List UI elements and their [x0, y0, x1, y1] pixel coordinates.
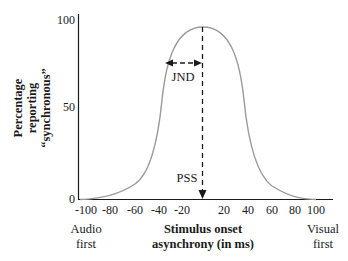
x-tick: -40 — [151, 203, 167, 217]
pss-label: PSS — [177, 171, 198, 185]
chart: 100 50 0 -100 -80 -60 -40 -20 20 40 60 8… — [0, 0, 348, 261]
y-tick-100: 100 — [57, 13, 75, 27]
y-axis-label-line: Percentage — [11, 78, 25, 137]
x-tick: -20 — [174, 203, 190, 217]
x-axis-label-line: asynchrony (in ms) — [152, 237, 254, 251]
visual-first-label: Visual — [307, 222, 339, 236]
x-tick: 80 — [289, 203, 301, 217]
x-tick: -60 — [127, 203, 143, 217]
jnd-right-arrowhead-icon — [194, 60, 202, 67]
audio-first-label: first — [76, 237, 97, 251]
x-tick: -100 — [75, 203, 97, 217]
x-tick: -80 — [102, 203, 118, 217]
y-tick-50: 50 — [63, 100, 75, 114]
x-tick: 60 — [266, 203, 278, 217]
x-tick: 20 — [218, 203, 230, 217]
y-axis-label-line: “synchronous” — [39, 68, 53, 148]
y-axis-label: Percentage reporting “synchronous” — [11, 68, 53, 148]
y-axis-label-line: reporting — [25, 82, 39, 133]
pss-arrowhead-icon — [199, 190, 207, 199]
visual-first-label: first — [313, 237, 334, 251]
x-tick: 100 — [307, 203, 325, 217]
synchrony-curve — [80, 27, 316, 200]
x-axis-label-line: Stimulus onset — [164, 222, 243, 236]
x-tick: 40 — [242, 203, 254, 217]
jnd-label: JND — [172, 70, 195, 84]
audio-first-label: Audio — [70, 222, 101, 236]
